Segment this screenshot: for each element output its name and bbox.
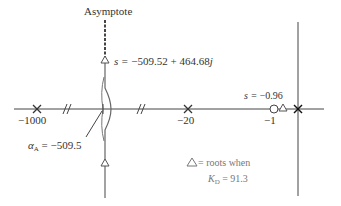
legend-triangle-icon bbox=[187, 158, 197, 166]
root-triangle-lower bbox=[101, 159, 109, 166]
alpha-label: αA = −509.5 bbox=[28, 139, 82, 153]
legend-line-2: KD = 91.3 bbox=[207, 173, 248, 186]
alpha-pointer-line bbox=[86, 111, 102, 137]
complex-root-label: s = −509.52 + 464.68j bbox=[114, 55, 213, 67]
real-root-label: s = −0.96 bbox=[244, 90, 283, 101]
asymptote-label: Asymptote bbox=[84, 5, 132, 17]
tick-label-1000: −1000 bbox=[18, 114, 47, 126]
root-triangle-real bbox=[279, 104, 287, 111]
tick-label-20: −20 bbox=[177, 114, 195, 126]
root-locus-branch-lower bbox=[105, 109, 111, 198]
legend-line-1: = roots when bbox=[198, 157, 250, 168]
root-locus-branch-upper bbox=[105, 60, 111, 109]
root-locus-diagram: Asymptote s = −509.52 + 464.68j s = −0.9… bbox=[0, 0, 341, 206]
zero-marker-1 bbox=[270, 105, 278, 113]
root-triangle-upper bbox=[101, 56, 109, 63]
tick-label-1: −1 bbox=[264, 114, 276, 126]
